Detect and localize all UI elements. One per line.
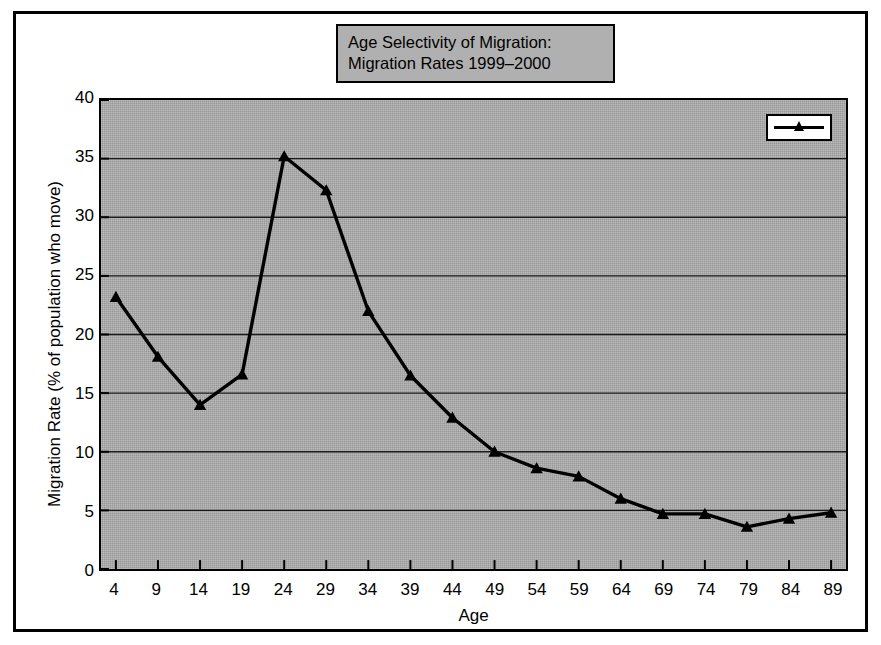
x-tick-label: 24 <box>274 580 293 600</box>
gridlines <box>101 159 846 511</box>
chart-title-line-2: Migration Rates 1999–2000 <box>348 53 603 74</box>
x-tick-label: 59 <box>570 580 589 600</box>
y-tick-label: 15 <box>50 384 94 404</box>
plot-area <box>99 98 848 571</box>
x-tick-label: 69 <box>654 580 673 600</box>
x-tick-label: 74 <box>697 580 716 600</box>
legend-sample-icon <box>768 116 830 139</box>
x-tick-label: 84 <box>781 580 800 600</box>
x-axis-tick-labels: 4914192429343944495459646974798489 <box>99 580 848 604</box>
x-tick-label: 64 <box>612 580 631 600</box>
data-point-marker <box>236 368 248 379</box>
x-tick-label: 49 <box>485 580 504 600</box>
x-tick-label: 19 <box>231 580 250 600</box>
x-tick-label: 89 <box>824 580 843 600</box>
migration-rate-series-line <box>116 156 831 527</box>
x-tick-label: 44 <box>443 580 462 600</box>
chart-figure: Age Selectivity of Migration: Migration … <box>13 11 868 632</box>
y-tick-label: 10 <box>50 443 94 463</box>
migration-rate-series-markers <box>110 150 837 532</box>
data-point-marker <box>278 150 290 161</box>
x-tick-label: 4 <box>109 580 118 600</box>
y-axis-tick-marks <box>101 100 109 569</box>
data-point-marker <box>362 305 374 316</box>
x-tick-label: 9 <box>152 580 161 600</box>
x-tick-label: 39 <box>401 580 420 600</box>
data-point-marker <box>110 291 122 302</box>
y-axis-tick-labels: 0510152025303540 <box>44 98 94 571</box>
chart-title-line-1: Age Selectivity of Migration: <box>348 32 603 53</box>
y-tick-label: 0 <box>50 561 94 581</box>
chart-title-box: Age Selectivity of Migration: Migration … <box>336 24 615 83</box>
x-axis-title: Age <box>99 606 848 626</box>
y-tick-label: 5 <box>50 502 94 522</box>
x-tick-label: 34 <box>358 580 377 600</box>
x-tick-label: 54 <box>527 580 546 600</box>
line-chart-svg <box>101 100 846 569</box>
chart-legend <box>766 114 832 141</box>
x-axis-tick-marks <box>116 560 831 569</box>
x-tick-label: 79 <box>739 580 758 600</box>
y-tick-label: 25 <box>50 265 94 285</box>
y-tick-label: 30 <box>50 206 94 226</box>
x-tick-label: 14 <box>189 580 208 600</box>
y-tick-label: 35 <box>50 147 94 167</box>
y-tick-label: 40 <box>50 88 94 108</box>
y-tick-label: 20 <box>50 325 94 345</box>
x-tick-label: 29 <box>316 580 335 600</box>
